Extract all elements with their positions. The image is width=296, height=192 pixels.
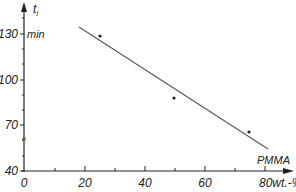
x-tick-label-80: 80wt.-%: [259, 176, 296, 190]
data-point: [172, 96, 175, 99]
data-point: [247, 130, 250, 133]
fit-line: [79, 27, 268, 149]
chart: 130 100 70 40 min ti o 0 20 40 60 80wt.-…: [0, 0, 296, 192]
x-tick-label-0: 0: [21, 176, 28, 190]
y-unit-label: min: [27, 28, 45, 40]
y-tick-label-40: 40: [5, 164, 19, 178]
x-axis-arrow-icon: [283, 168, 294, 174]
y-tick-label-100: 100: [0, 73, 18, 87]
data-point: [98, 34, 101, 37]
x-tick-label-60: 60: [198, 176, 212, 190]
y-axis-label: ti: [33, 2, 38, 18]
y-tick-label-130: 130: [0, 27, 18, 41]
y-tick-label-70: 70: [5, 118, 19, 132]
y-axis-mark: o: [22, 135, 26, 142]
x-tick-label-20: 20: [77, 176, 92, 190]
x-tick-label-40: 40: [138, 176, 152, 190]
y-axis-arrow-icon: [21, 2, 27, 12]
x-ticks: [55, 166, 265, 171]
x-axis-label: PMMA: [257, 154, 290, 166]
